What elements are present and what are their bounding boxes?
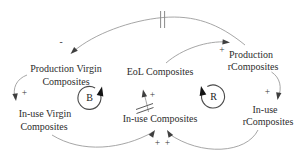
sign-minus-top-arc: -: [59, 37, 62, 47]
arrowhead-virgin-production-to-virgin-inuse: [12, 93, 18, 101]
node-inuse-virgin-line1: In-use Virgin: [19, 108, 72, 119]
sign-plus-virgin-inuse-to-inuse: +: [155, 138, 160, 148]
loop-r-arrowhead: [198, 85, 207, 96]
node-production-virgin-line2: Composites: [42, 76, 89, 87]
sign-plus-inuse-to-eol: +: [150, 90, 155, 100]
causal-loop-diagram: - + + + + + + B R Pr: [0, 0, 305, 163]
node-production-r-line1: Production: [229, 49, 273, 60]
node-production-r-line2: rComposites: [228, 61, 279, 72]
arrow-virgin-inuse-to-inuse: [52, 132, 153, 147]
arrowhead-inuse-to-eol: [140, 89, 147, 97]
diagram-canvas: - + + + + + + B R Pr: [0, 0, 305, 163]
sign-plus-virgin-production-to-virgin-inuse: +: [22, 88, 27, 98]
node-inuse-r-line1: In-use: [253, 104, 279, 115]
loop-r-label: R: [210, 91, 217, 102]
arrowhead-rinuse-to-inuse: [165, 129, 173, 138]
arrowhead-virgin-inuse-to-inuse: [149, 129, 158, 138]
node-inuse-composites: In-use Composites: [123, 113, 198, 124]
node-eol-composites: EoL Composites: [127, 66, 194, 77]
sign-plus-eol-to-rproduction: +: [219, 45, 224, 55]
node-production-virgin-line1: Production Virgin: [30, 63, 102, 74]
arrow-rinuse-to-inuse: [169, 130, 259, 149]
sign-plus-rproduction-to-rinuse: +: [265, 87, 270, 97]
arrowhead-rproduction-to-rinuse: [275, 92, 282, 100]
loop-b-arrowhead: [97, 86, 106, 97]
loop-b-label: B: [86, 92, 93, 103]
node-inuse-virgin-line2: Composites: [20, 121, 67, 132]
sign-plus-rinuse-to-inuse: +: [165, 138, 170, 148]
arrow-eol-to-rproduction: [166, 42, 228, 63]
node-inuse-r-line2: rComposites: [243, 116, 294, 127]
arrowhead-rproduction-to-virgin-production: [69, 47, 78, 56]
